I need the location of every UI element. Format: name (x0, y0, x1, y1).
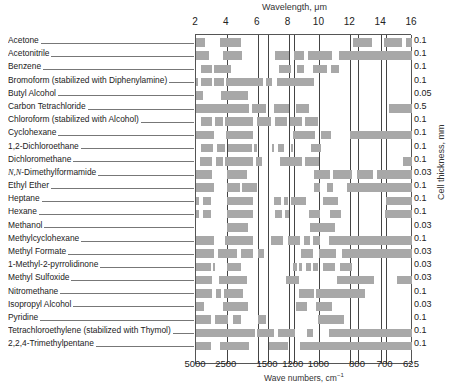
transparency-bar (357, 170, 373, 179)
solvent-label-row: Heptane (8, 192, 194, 205)
transparency-bar (285, 210, 289, 219)
cell-thickness-value: 0.5 (414, 100, 444, 113)
transparency-bar (377, 170, 412, 179)
transparency-bar (309, 78, 314, 87)
transparency-bar (226, 131, 253, 140)
transparency-bar (196, 197, 199, 206)
transparency-bar (216, 289, 221, 298)
transparency-bar (217, 144, 225, 153)
transparency-chart (195, 34, 411, 364)
transparency-bar (385, 210, 412, 219)
transparency-bar (196, 170, 212, 179)
bar-row (196, 326, 412, 339)
transparency-bar (257, 329, 274, 338)
bar-row (196, 62, 412, 75)
transparency-bar (196, 276, 212, 285)
bottom-tick-label: 800 (349, 358, 365, 369)
top-tick-label: 2 (192, 16, 198, 27)
bar-row (196, 115, 412, 128)
solvent-label-row: Pyridine (8, 311, 194, 324)
transparency-bar (196, 131, 214, 140)
transparency-bar (227, 210, 253, 219)
transparency-bar (278, 329, 295, 338)
transparency-bar (309, 210, 320, 219)
transparency-bar (386, 197, 412, 206)
transparency-bar (350, 131, 412, 140)
cell-thickness-value: 0.1 (414, 34, 444, 47)
bar-row (196, 36, 412, 49)
solvent-label: Methanol (8, 220, 44, 230)
solvent-label: Dichloromethane (8, 154, 73, 164)
transparency-bar (215, 117, 223, 126)
solvent-label-row: 1-Methyl-2-pyrrolidinone (8, 258, 194, 271)
bottom-tick-label: 1000 (308, 358, 329, 369)
solvent-label-row: Bromoform (stabilized with Diphenylamine… (8, 74, 194, 87)
transparency-bar (323, 263, 335, 272)
transparency-bar (319, 249, 336, 258)
transparency-bar (274, 104, 289, 113)
solvent-label: Tetrachloroethylene (stabilized with Thy… (8, 325, 173, 335)
solvent-label-row: 2,2,4-Trimethylpentane (8, 337, 194, 350)
transparency-bar (254, 144, 257, 153)
wavenumber-label: Wave numbers, cm (264, 373, 337, 383)
transparency-bar (301, 249, 313, 258)
bottom-axis-ticks: 50002500150012001000800700625 (0, 358, 459, 370)
transparency-bar (342, 249, 412, 258)
transparency-bar (201, 78, 212, 87)
transparency-bar (294, 51, 304, 60)
bar-row (196, 221, 412, 234)
bar-row (196, 340, 412, 353)
solvent-label: Benzene (8, 61, 43, 71)
transparency-bar (203, 197, 211, 206)
bar-row (196, 102, 412, 115)
transparency-bar (214, 78, 224, 87)
transparency-bar (242, 183, 257, 192)
transparency-bar (316, 289, 365, 298)
bar-row (196, 194, 412, 207)
solvent-label-row: Tetrachloroethylene (stabilized with Thy… (8, 324, 194, 337)
bar-row (196, 287, 412, 300)
transparency-bar (321, 131, 331, 140)
transparency-bar (313, 65, 327, 74)
transparency-bar (275, 51, 289, 60)
transparency-bar (293, 131, 315, 140)
bottom-tick-label: 1500 (256, 358, 277, 369)
transparency-bar (275, 210, 282, 219)
transparency-bar (218, 249, 237, 258)
solvent-label-row: Acetone (8, 34, 194, 47)
transparency-bar (225, 236, 253, 245)
solvent-label-row: Butyl Alcohol (8, 87, 194, 100)
transparency-bar (196, 210, 199, 219)
transparency-bar (314, 170, 330, 179)
solvent-label-row: Dichloromethane (8, 153, 194, 166)
transparency-bar (397, 276, 412, 285)
transparency-bar (258, 315, 266, 324)
cell-thickness-title: Cell thickness, mm (436, 124, 446, 200)
solvent-label: Isopropyl Alcohol (8, 299, 73, 309)
transparency-bar (384, 38, 402, 47)
transparency-bar (318, 315, 344, 324)
bottom-tick-label: 625 (403, 358, 419, 369)
solvent-label-row: Nitromethane (8, 285, 194, 298)
transparency-bar (280, 157, 302, 166)
transparency-bar (290, 117, 302, 126)
solvent-label: Butyl Alcohol (8, 88, 58, 98)
solvent-label: Cyclohexane (8, 127, 58, 137)
transparency-bar (297, 65, 304, 74)
solvent-label: Methyl Sulfoxide (8, 272, 71, 282)
transparency-bar (220, 38, 241, 47)
transparency-bar (279, 65, 291, 74)
transparency-bar (266, 78, 272, 87)
transparency-bar (196, 342, 211, 351)
transparency-bar (316, 302, 332, 311)
solvent-label: Hexane (8, 206, 39, 216)
solvent-label: Nitromethane (8, 286, 60, 296)
transparency-bar (296, 302, 307, 311)
transparency-bar (256, 157, 262, 166)
transparency-bar (201, 144, 213, 153)
solvent-label-row: 1,2-Dichloroethane (8, 140, 194, 153)
transparency-bar (196, 51, 209, 60)
transparency-bar (278, 144, 284, 153)
bottom-tick-label: 1200 (282, 358, 303, 369)
bar-row (196, 300, 412, 313)
